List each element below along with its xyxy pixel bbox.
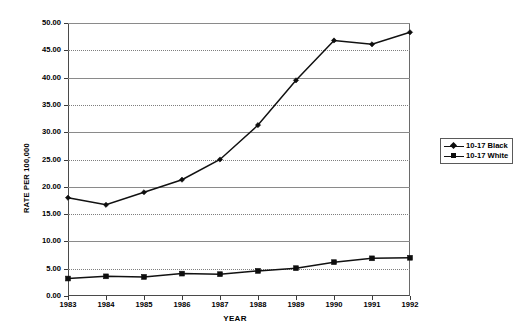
y-tick-label: 40.00 [17,74,61,82]
legend-entry: 10-17 Black [444,141,508,151]
chart-legend: 10-17 Black10-17 White [440,138,513,164]
data-point-marker [294,266,299,271]
y-tick-mark [64,78,68,79]
x-tick-label: 1985 [124,301,164,309]
data-point-marker [104,274,109,279]
y-tick-label: 35.00 [17,101,61,109]
y-tick-mark [64,132,68,133]
y-tick-label: 30.00 [17,128,61,136]
legend-label: 10-17 White [464,152,508,160]
data-point-marker [65,195,70,200]
y-tick-label: 50.00 [17,19,61,27]
legend-label: 10-17 Black [464,142,508,150]
series-line [68,258,410,279]
data-point-marker [218,272,223,277]
plot-area [68,23,410,296]
y-tick-mark [64,187,68,188]
data-point-marker [141,190,146,195]
y-tick-label: 25.00 [17,156,61,164]
x-tick-label: 1990 [314,301,354,309]
y-tick-label: 45.00 [17,46,61,54]
x-tick-label: 1989 [276,301,316,309]
x-tick-mark [258,296,259,300]
y-tick-label: 0.00 [17,292,61,300]
y-tick-mark [64,269,68,270]
data-point-marker [408,255,413,260]
x-tick-mark [144,296,145,300]
x-tick-label: 1983 [48,301,88,309]
data-point-marker [103,202,108,207]
y-tick-mark [64,50,68,51]
series-white [66,255,413,281]
y-tick-label: 20.00 [17,183,61,191]
x-tick-mark [106,296,107,300]
x-tick-mark [68,296,69,300]
x-tick-mark [296,296,297,300]
x-tick-mark [220,296,221,300]
x-tick-mark [334,296,335,300]
legend-square-marker-icon [444,151,464,161]
y-tick-mark [64,23,68,24]
y-tick-label: 10.00 [17,237,61,245]
series-line [68,32,410,205]
y-tick-mark [64,105,68,106]
x-axis-title: YEAR [0,314,470,323]
x-tick-mark [410,296,411,300]
legend-diamond-marker-icon [444,141,464,151]
data-point-marker [407,30,412,35]
y-tick-mark [64,214,68,215]
line-chart-figure: RATE PER 100,000 0.005.0010.0015.0020.00… [0,0,521,336]
data-point-marker [369,42,374,47]
data-point-marker [179,177,184,182]
y-tick-label: 15.00 [17,210,61,218]
x-tick-label: 1987 [200,301,240,309]
x-tick-label: 1984 [86,301,126,309]
legend-entry: 10-17 White [444,151,508,161]
series-layer [68,23,410,296]
y-tick-mark [64,241,68,242]
x-tick-label: 1991 [352,301,392,309]
data-point-marker [370,256,375,261]
data-point-marker [180,271,185,276]
x-tick-mark [182,296,183,300]
y-tick-label: 5.00 [17,265,61,273]
x-tick-label: 1986 [162,301,202,309]
x-tick-mark [372,296,373,300]
data-point-marker [66,276,71,281]
y-tick-mark [64,160,68,161]
series-black [65,30,412,208]
x-tick-label: 1988 [238,301,278,309]
data-point-marker [142,274,147,279]
data-point-marker [256,268,261,273]
data-point-marker [332,260,337,265]
x-tick-label: 1992 [390,301,430,309]
